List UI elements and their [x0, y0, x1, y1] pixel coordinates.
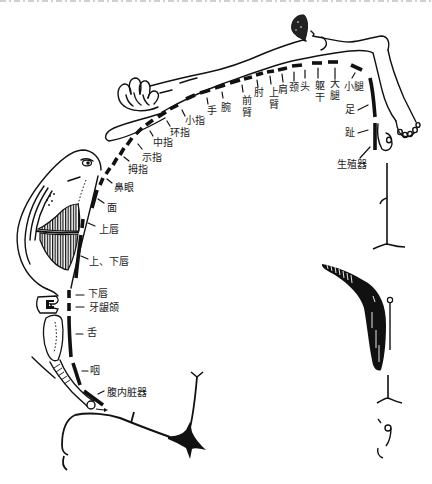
- diagram-artwork: [0, 0, 432, 484]
- arrow-icon: [96, 408, 108, 412]
- neuron-right: [373, 163, 405, 249]
- label-thigh: 大腿: [328, 78, 338, 101]
- label-middle-finger: 中指: [153, 138, 173, 148]
- label-pharynx: 咽: [90, 366, 100, 376]
- label-genitals: 生殖器: [337, 160, 367, 170]
- label-thumb: 拇指: [128, 165, 148, 175]
- label-elbow: 肘: [254, 88, 264, 98]
- label-intra-abdominal: 腹内脏器: [107, 388, 147, 398]
- label-wrist: 腕: [221, 103, 231, 113]
- label-little-finger: 小指: [185, 116, 205, 126]
- label-trunk: 躯干: [313, 80, 323, 103]
- label-toes: 趾: [345, 128, 355, 138]
- hand-drawing: [106, 78, 165, 141]
- label-upper-lower-lip: 上、下唇: [89, 257, 129, 267]
- label-lower-leg: 小腿: [344, 82, 364, 92]
- upper-lip-drawing: [38, 204, 80, 231]
- label-forearm: 前臂: [240, 95, 250, 118]
- label-head: 头: [300, 82, 310, 92]
- hair-icon: [292, 15, 308, 40]
- sensory-homunculus-diagram: 生殖器 趾 足 小腿 大腿 躯干 头 颈 肩 上臂 肘 前臂 腕 手 小指 环指…: [0, 0, 432, 484]
- eye-icon: [81, 159, 93, 166]
- lower-lip-drawing: [40, 233, 78, 270]
- label-tongue: 舌: [87, 328, 97, 338]
- label-face: 面: [107, 203, 117, 213]
- label-ticks: [76, 68, 370, 394]
- label-teeth-gums-jaw: 牙龈颌: [89, 303, 119, 313]
- tongue-drawing: [43, 315, 63, 361]
- label-foot: 足: [345, 105, 355, 115]
- label-shoulder: 肩: [278, 85, 288, 95]
- label-hand: 手: [207, 106, 217, 116]
- label-index-finger: 示指: [142, 153, 162, 163]
- arm-outline-top: [150, 40, 303, 86]
- neuron-cell-body: [168, 422, 206, 459]
- label-neck: 颈: [289, 83, 299, 93]
- label-ring-finger: 环指: [170, 128, 190, 138]
- label-upper-lip: 上唇: [99, 225, 119, 235]
- label-nose-eye: 鼻眼: [114, 183, 134, 193]
- cortex-section-drawing: [322, 264, 402, 458]
- leg-outline: [388, 50, 416, 122]
- label-upper-arm: 上臂: [267, 87, 277, 110]
- label-lower-lip: 下唇: [88, 289, 108, 299]
